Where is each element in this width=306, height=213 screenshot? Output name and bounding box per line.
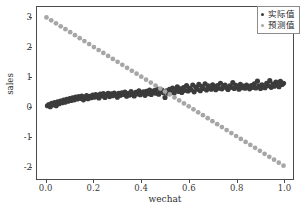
x-tick-label: 1.0 <box>278 183 292 193</box>
scatter-canvas <box>37 7 293 179</box>
x-tick-mark <box>46 180 47 183</box>
y-tick-mark <box>29 107 32 108</box>
legend-label-actual: 实际值 <box>268 9 295 20</box>
plot-axes <box>36 6 294 180</box>
y-axis-label: sales <box>5 56 15 112</box>
y-tick-mark <box>29 77 32 78</box>
x-tick-label: 0.2 <box>87 183 101 193</box>
x-tick-mark <box>284 180 285 183</box>
x-tick-label: 0.4 <box>134 183 148 193</box>
y-tick-mark <box>29 137 32 138</box>
x-tick-label: 0.6 <box>182 183 196 193</box>
series-predicted <box>44 15 286 168</box>
y-tick-mark <box>29 167 32 168</box>
legend: 实际值 预测值 <box>257 6 300 34</box>
figure: -2-10123 0.00.20.40.60.81.0 wechat sales… <box>0 0 306 213</box>
legend-label-predicted: 预测值 <box>268 20 295 31</box>
y-tick-mark <box>29 47 32 48</box>
x-tick-mark <box>189 180 190 183</box>
x-tick-mark <box>237 180 238 183</box>
x-axis-label: wechat <box>36 194 294 204</box>
legend-entry-predicted: 预测值 <box>261 20 295 31</box>
y-tick-mark <box>29 17 32 18</box>
x-tick-label: 0.8 <box>230 183 244 193</box>
x-tick-label: 0.0 <box>39 183 53 193</box>
x-tick-mark <box>93 180 94 183</box>
x-tick-mark <box>141 180 142 183</box>
legend-marker-predicted-icon <box>261 24 264 27</box>
legend-marker-actual-icon <box>261 13 264 16</box>
legend-entry-actual: 实际值 <box>261 9 295 20</box>
